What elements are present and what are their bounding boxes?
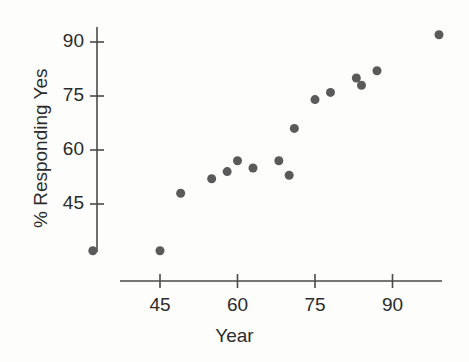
x-tick-label: 45 [130, 294, 190, 316]
data-point [285, 171, 294, 180]
data-point [176, 189, 185, 198]
data-point [207, 174, 216, 183]
data-point [233, 156, 242, 165]
data-point [352, 74, 361, 83]
x-tick-label: 75 [285, 294, 345, 316]
x-tick-label: 60 [208, 294, 268, 316]
data-point [290, 124, 299, 133]
data-point [373, 66, 382, 75]
data-point [435, 30, 444, 39]
scatter-plot-figure: 90 75 60 45 45 60 75 90 % Responding Yes… [0, 0, 469, 362]
data-point [311, 95, 320, 104]
data-point [156, 246, 165, 255]
x-axis-title: Year [0, 325, 469, 347]
data-point [326, 88, 335, 97]
data-point [249, 164, 258, 173]
y-axis [90, 27, 104, 252]
data-points [88, 30, 443, 255]
data-point [357, 81, 366, 90]
data-point [274, 156, 283, 165]
x-axis [120, 274, 442, 288]
x-tick-label: 90 [363, 294, 423, 316]
y-tick-label: 90 [0, 30, 84, 52]
data-point [223, 167, 232, 176]
y-axis-title: % Responding Yes [30, 68, 52, 228]
data-point [88, 246, 97, 255]
